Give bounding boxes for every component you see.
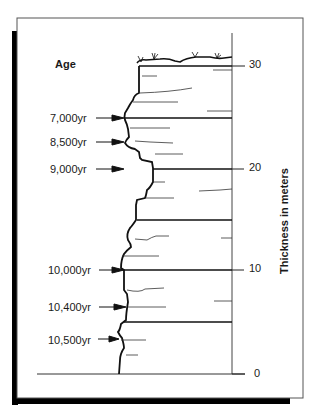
age-label: 10,000yr (48, 264, 91, 276)
tick-label: 30 (249, 58, 261, 70)
axis-label: Thickness in meters (278, 168, 290, 274)
tick-label: 0 (254, 367, 260, 379)
age-label: 9,000yr (50, 163, 87, 175)
tick-label: 20 (249, 161, 261, 173)
frame-shadow-bottom (12, 398, 290, 404)
age-label: 10,400yr (48, 301, 91, 313)
age-heading: Age (55, 58, 76, 70)
stratigraphic-column-diagram: Age (0, 0, 315, 418)
tick-label: 10 (249, 262, 261, 274)
age-label: 10,500yr (48, 334, 91, 346)
age-label: 7,000yr (50, 112, 87, 124)
age-label: 8,500yr (50, 136, 87, 148)
